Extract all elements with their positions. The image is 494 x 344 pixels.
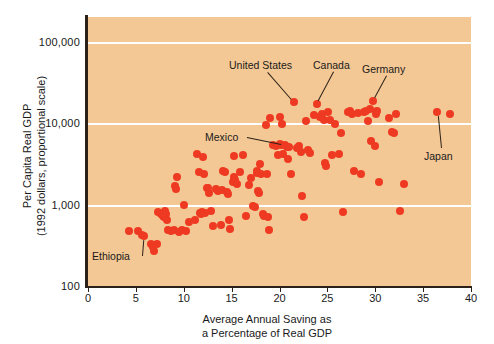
data-point — [163, 216, 171, 224]
data-point — [446, 110, 454, 118]
data-point — [221, 168, 229, 176]
data-point — [233, 180, 241, 188]
annotation-leader-line — [318, 72, 334, 101]
annotation-label-germany: Germany — [362, 63, 405, 75]
data-point — [191, 216, 199, 224]
data-point — [200, 170, 208, 178]
data-point — [339, 208, 347, 216]
data-point — [284, 155, 292, 163]
data-point — [364, 117, 372, 125]
annotation-label-mexico: Mexico — [205, 131, 238, 143]
data-point — [207, 207, 215, 215]
y-axis-tick-label: 100 — [14, 280, 80, 292]
data-point — [236, 168, 244, 176]
annotation-leader-line — [142, 241, 144, 257]
annotation-leader-line — [374, 76, 387, 98]
data-point — [390, 129, 398, 137]
data-point — [224, 190, 232, 198]
data-point — [153, 240, 161, 248]
plot-area — [88, 17, 471, 286]
data-point — [172, 185, 180, 193]
x-axis-tick-label: 25 — [312, 292, 342, 304]
data-point — [225, 216, 233, 224]
data-point — [266, 114, 274, 122]
x-axis-tick-label: 30 — [360, 292, 390, 304]
data-point — [199, 153, 207, 161]
annotation-label-ethiopia: Ethiopia — [92, 250, 130, 262]
data-point — [150, 247, 158, 255]
data-point — [239, 151, 247, 159]
data-point — [306, 149, 314, 157]
data-point — [285, 143, 293, 151]
x-axis-tick-label: 10 — [169, 292, 199, 304]
x-axis-tick-label: 5 — [121, 292, 151, 304]
x-axis-tick-label: 0 — [73, 292, 103, 304]
data-point — [357, 170, 365, 178]
y-axis-title: Per Capita Real GDP (1992 dollars, propo… — [20, 36, 48, 276]
data-point — [226, 225, 234, 233]
y-axis-line — [85, 15, 88, 288]
data-point — [400, 180, 408, 188]
data-point — [173, 173, 181, 181]
data-point — [217, 221, 225, 229]
annotation-label-japan: Japan — [424, 150, 453, 162]
data-point — [264, 213, 272, 221]
data-point — [287, 170, 295, 178]
gridline — [88, 42, 471, 44]
x-axis-tick-label: 20 — [265, 292, 295, 304]
x-axis-title: Average Annual Saving as a Percentage of… — [147, 312, 387, 340]
data-point — [433, 108, 441, 116]
data-point — [182, 227, 190, 235]
data-point — [255, 189, 263, 197]
x-axis-tick-label: 40 — [456, 292, 486, 304]
data-point — [335, 150, 343, 158]
x-axis-tick-label: 15 — [217, 292, 247, 304]
annotation-label-canada: Canada — [313, 59, 350, 71]
annotation-label-united-states: United States — [229, 59, 292, 71]
data-point — [298, 192, 306, 200]
gridline — [88, 205, 471, 207]
data-point — [242, 212, 250, 220]
x-axis-title-line2: a Percentage of Real GDP — [147, 326, 387, 340]
data-point — [337, 129, 345, 137]
x-axis-title-line1: Average Annual Saving as — [147, 312, 387, 326]
x-axis-tick-label: 35 — [408, 292, 438, 304]
data-point — [256, 160, 264, 168]
scatter-chart-figure: 1001,00010,000100,000 0510152025303540 P… — [0, 0, 494, 344]
data-point — [278, 120, 286, 128]
data-point — [125, 227, 133, 235]
data-point — [331, 120, 339, 128]
data-point — [322, 162, 330, 170]
data-point — [396, 207, 404, 215]
data-point — [140, 232, 148, 240]
annotation-leader-line — [267, 72, 291, 100]
data-point — [262, 121, 270, 129]
data-point — [300, 213, 308, 221]
data-point — [251, 203, 259, 211]
y-axis-title-line2: (1992 dollars, proportional scale) — [34, 36, 48, 276]
data-point — [263, 170, 271, 178]
data-point — [230, 152, 238, 160]
data-point — [369, 97, 377, 105]
data-point — [373, 107, 381, 115]
data-point — [313, 100, 321, 108]
data-point — [371, 142, 379, 150]
data-point — [265, 226, 273, 234]
y-axis-title-line1: Per Capita Real GDP — [20, 36, 34, 276]
data-point — [392, 110, 400, 118]
data-point — [375, 178, 383, 186]
annotation-leader-line — [438, 116, 442, 148]
data-point — [180, 201, 188, 209]
